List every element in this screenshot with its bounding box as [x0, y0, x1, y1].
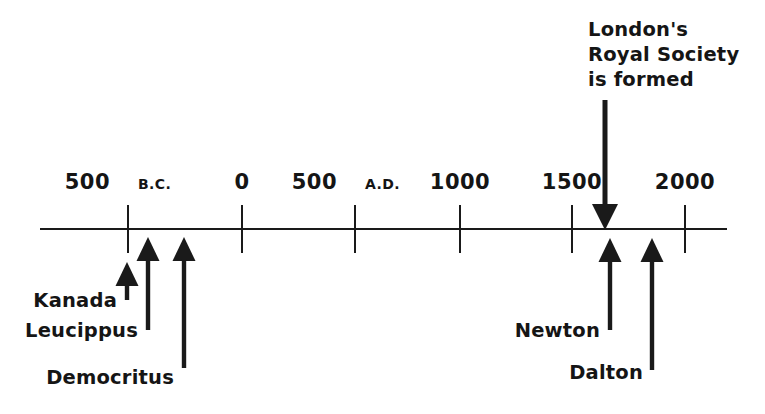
event-labels-group: KanadaLeucippusDemocritusNewtonDalton	[25, 289, 643, 389]
callout-group: London'sRoyal Societyis formed	[588, 18, 739, 91]
tick-2000-number: 2000	[655, 170, 715, 194]
arrow-leucippus-head	[137, 237, 160, 261]
arrow-newton-head	[599, 238, 622, 262]
callout-royal-society-line-1: London's	[588, 18, 688, 41]
tick-500-ad-number: 500	[292, 170, 337, 194]
event-arrows-up-group	[116, 237, 664, 370]
tick-500-bc-number: 500	[65, 170, 110, 194]
label-newton: Newton	[515, 319, 600, 342]
label-democritus: Democritus	[46, 366, 174, 389]
callout-royal-society-line-3: is formed	[588, 68, 694, 91]
tick-500-ad-era: A.D.	[365, 176, 400, 192]
callout-royal-society-line-2: Royal Society	[588, 43, 739, 66]
label-kanada: Kanada	[33, 289, 117, 312]
arrow-kanada-shaft	[125, 284, 129, 300]
timeline-figure: 500B.C.0500A.D.100015002000 KanadaLeucip…	[0, 0, 765, 414]
arrow-dalton-head	[641, 238, 664, 262]
arrow-kanada-head	[116, 262, 139, 286]
tick-1500-number: 1500	[542, 170, 602, 194]
tick-500-bc-era: B.C.	[138, 176, 171, 192]
tick-0-number: 0	[234, 170, 249, 194]
arrow-newton-shaft	[608, 260, 612, 330]
arrow-democritus-shaft	[182, 259, 186, 368]
arrow-democritus-head	[173, 237, 196, 261]
label-leucippus: Leucippus	[25, 319, 138, 342]
tick-labels-group: 500B.C.0500A.D.100015002000	[65, 170, 716, 194]
arrow-dalton-shaft	[650, 260, 654, 370]
arrow-royal-society-shaft	[603, 100, 608, 206]
event-arrows-down-group	[592, 100, 618, 230]
arrow-leucippus-shaft	[146, 259, 150, 330]
label-dalton: Dalton	[569, 361, 643, 384]
arrow-royal-society-head	[592, 204, 618, 230]
tick-1000-number: 1000	[430, 170, 490, 194]
timeline-canvas: 500B.C.0500A.D.100015002000 KanadaLeucip…	[0, 0, 765, 414]
